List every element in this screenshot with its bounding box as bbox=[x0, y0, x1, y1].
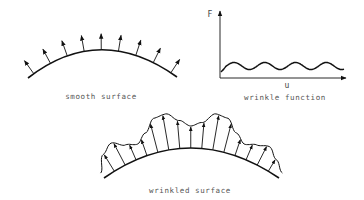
wrinkle-function-label: wrinkle function bbox=[244, 94, 326, 102]
normal-arrow-icon bbox=[118, 35, 121, 51]
normal-arrow-icon bbox=[246, 145, 252, 160]
normal-arrow-icon bbox=[268, 160, 275, 171]
normal-arrow-icon bbox=[43, 49, 51, 63]
normal-arrow-icon bbox=[235, 140, 240, 156]
normal-arrow-icon bbox=[141, 140, 146, 156]
smooth-surface-label: smooth surface bbox=[65, 93, 137, 101]
smooth-surface-diagram bbox=[24, 34, 179, 78]
normal-arrow-icon bbox=[163, 116, 169, 150]
smooth-surface-curve bbox=[28, 50, 177, 78]
normal-arrow-icon bbox=[177, 121, 179, 148]
normal-arrow-icon bbox=[24, 61, 33, 74]
normal-arrow-icon bbox=[202, 123, 204, 148]
wrinkled-surface-diagram bbox=[101, 114, 283, 178]
normal-arrow-icon bbox=[224, 124, 231, 152]
base-surface-curve bbox=[104, 148, 279, 178]
wrinkle-wave-curve bbox=[221, 63, 344, 72]
wrinkle-function-plot bbox=[220, 11, 346, 78]
wrinkled-surface-label: wrinkled surface bbox=[149, 187, 231, 195]
normal-arrow-icon bbox=[171, 59, 180, 72]
normal-arrow-icon bbox=[257, 147, 266, 165]
normal-arrow-icon bbox=[136, 40, 141, 55]
normal-arrow-icon bbox=[114, 144, 125, 165]
normal-arrow-icon bbox=[151, 124, 158, 152]
y-axis-label: F bbox=[208, 11, 213, 19]
normal-arrow-icon bbox=[130, 145, 136, 160]
normal-arrow-icon bbox=[62, 41, 67, 56]
x-axis-label: u bbox=[285, 82, 290, 90]
normal-arrow-icon bbox=[81, 36, 84, 52]
normal-arrow-icon bbox=[104, 155, 114, 171]
normal-arrow-icon bbox=[213, 116, 219, 150]
normal-arrow-icon bbox=[153, 48, 160, 62]
